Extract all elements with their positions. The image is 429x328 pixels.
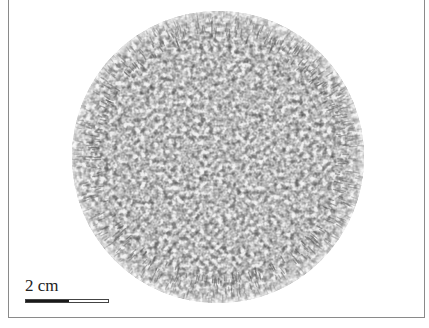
figure: 2 cm bbox=[0, 0, 429, 328]
scale-bar-label: 2 cm bbox=[25, 277, 59, 295]
pattern-disc bbox=[70, 8, 368, 308]
scale-bar-filled-segment bbox=[26, 300, 69, 302]
scale-bar bbox=[25, 299, 109, 303]
circular-pattern bbox=[0, 0, 429, 328]
